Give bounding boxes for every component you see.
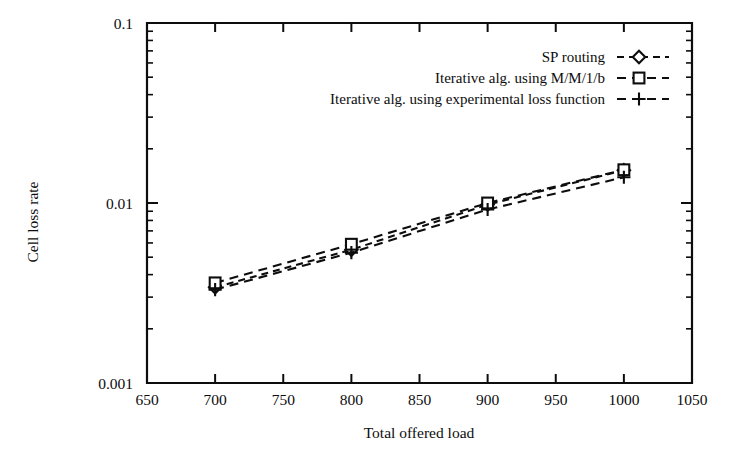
y-tick-label: 0.01 <box>106 195 133 212</box>
x-tick-label: 650 <box>135 391 159 408</box>
x-axis-tick-labels: 65070075080085090095010001050 <box>135 391 707 408</box>
x-tick-label: 1050 <box>677 391 708 408</box>
x-axis-label: Total offered load <box>364 424 475 441</box>
square-marker <box>634 73 645 84</box>
x-tick-label: 750 <box>272 391 296 408</box>
x-tick-label: 950 <box>544 391 568 408</box>
y-axis-label: Cell loss rate <box>24 181 41 262</box>
chart-figure: 65070075080085090095010001050 0.0010.010… <box>0 0 752 459</box>
legend-label: Iterative alg. using M/M/1/b <box>435 70 605 86</box>
x-tick-label: 800 <box>340 391 364 408</box>
x-tick-label: 850 <box>408 391 432 408</box>
x-tick-label: 900 <box>476 391 500 408</box>
x-tick-label: 700 <box>204 391 228 408</box>
y-tick-label: 0.001 <box>98 375 133 392</box>
legend-label: SP routing <box>542 49 606 65</box>
chart-svg: 65070075080085090095010001050 0.0010.010… <box>0 0 752 459</box>
legend-label: Iterative alg. using experimental loss f… <box>330 91 605 107</box>
x-tick-label: 1000 <box>608 391 639 408</box>
y-tick-label: 0.1 <box>114 15 133 32</box>
